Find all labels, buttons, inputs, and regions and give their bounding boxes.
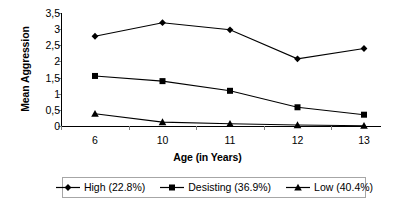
data-point-square — [169, 185, 175, 191]
legend-swatch-diamond — [55, 182, 81, 193]
x-tick-label: 6 — [92, 135, 98, 146]
legend-swatch-triangle — [285, 182, 311, 193]
legend-label: Desisting (36.9%) — [188, 182, 271, 193]
x-tick-label: 10 — [157, 135, 169, 146]
legend-label: High (22.8%) — [84, 182, 145, 193]
aggression-line-chart: Mean Aggression 00,511,522,533,5 6101112… — [0, 0, 415, 214]
x-axis-title: Age (in Years) — [0, 151, 415, 163]
legend-swatch-square — [159, 182, 185, 193]
x-tick-label: 12 — [292, 135, 304, 146]
legend-entry: Desisting (36.9%) — [159, 182, 271, 193]
legend-entry: Low (40.4%) — [285, 182, 373, 193]
x-tick-label: 11 — [225, 135, 236, 146]
data-point-diamond — [65, 184, 72, 191]
chart-legend: High (22.8%)Desisting (36.9%)Low (40.4%) — [62, 177, 366, 198]
legend-label: Low (40.4%) — [314, 182, 373, 193]
x-tick-label: 13 — [358, 135, 370, 146]
legend-entry: High (22.8%) — [55, 182, 145, 193]
